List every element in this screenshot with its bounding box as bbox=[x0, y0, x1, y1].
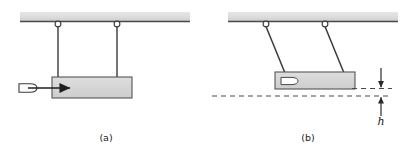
height-label-h: h bbox=[377, 115, 384, 128]
ceiling-b bbox=[228, 12, 398, 22]
suspension-a bbox=[55, 21, 120, 77]
ceiling-slab-b bbox=[228, 12, 398, 21]
right-string-b bbox=[325, 27, 344, 74]
panel-b-caption: (b) bbox=[301, 132, 314, 143]
figure-canvas: (a) h bbox=[0, 0, 414, 159]
height-dimension: h bbox=[377, 68, 384, 128]
panel-a: (a) bbox=[19, 12, 190, 143]
left-pivot-ring-a bbox=[55, 21, 61, 27]
suspension-b bbox=[263, 21, 344, 73]
right-pivot-ring-a bbox=[114, 21, 120, 27]
ceiling-a bbox=[20, 12, 190, 22]
embedded-bullet-body-b bbox=[281, 77, 298, 84]
panel-a-caption: (a) bbox=[99, 132, 112, 143]
left-string-b bbox=[266, 27, 285, 74]
right-pivot-ring-b bbox=[322, 21, 328, 27]
panel-b: h (b) bbox=[212, 12, 398, 143]
ballistic-pendulum-figure: (a) h bbox=[0, 0, 414, 159]
left-pivot-ring-b bbox=[263, 21, 269, 27]
ceiling-slab-a bbox=[20, 12, 190, 21]
bullet-b bbox=[281, 77, 298, 84]
